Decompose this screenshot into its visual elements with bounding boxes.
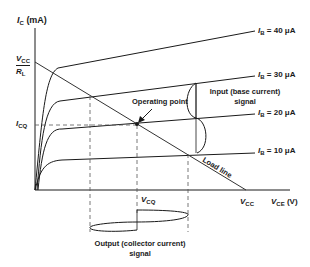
input-label-line1: Input (base current) [200,88,290,96]
ib-subscript: B [260,30,264,36]
ib-value: = 20 μA [267,108,296,117]
characteristic-plot [0,0,310,267]
ib-value: = 10 μA [267,146,296,155]
ib-subscript: B [260,112,264,118]
icq-label: ICQ [16,120,27,129]
input-label-line2: signal [200,98,290,106]
vcc-over-rl-label: VCC RL [16,55,30,77]
rl-subscript: L [22,71,26,77]
vcq-label: VCQ [141,196,155,205]
curve-label-ib-40: IB = 40 μA [258,27,296,36]
vcc-x-label: VCC [240,198,254,207]
output-label-line1: Output (collector current) [88,240,192,248]
vcc-x-subscript: CC [245,201,254,207]
x-axis-subscript: CE [276,201,284,207]
output-signal-label: Output (collector current) signal [88,240,192,257]
input-signal-label: Input (base current) signal [200,88,290,105]
y-axis-subscript: C [20,20,24,26]
curve-label-ib-30: IB = 30 μA [258,71,296,80]
ib-value: = 40 μA [267,26,296,35]
output-signal-wave [90,210,188,231]
vcc-subscript: CC [21,58,30,64]
icq-subscript: CQ [18,123,27,129]
ib-value: = 30 μA [267,70,296,79]
operating-point-label: Operating point [132,98,188,106]
vcq-subscript: CQ [146,199,155,205]
x-axis-unit: (V) [287,197,298,206]
output-label-line2: signal [88,250,192,258]
curve-label-ib-10: IB = 10 μA [258,147,296,156]
ib-subscript: B [260,150,264,156]
y-axis-label: IC (mA) [17,16,47,26]
y-axis-unit: (mA) [26,15,47,25]
ib-subscript: B [260,74,264,80]
curve-label-ib-20: IB = 20 μA [258,109,296,118]
x-axis-label: VCE (V) [271,198,298,207]
